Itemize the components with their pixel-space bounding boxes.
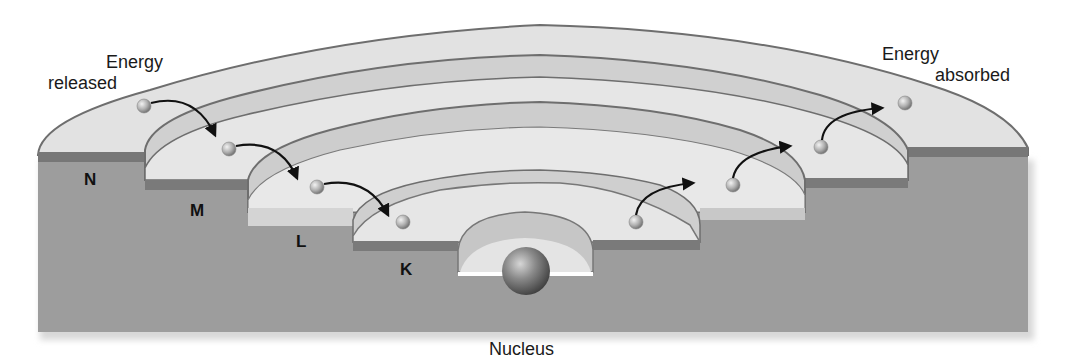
nucleus-sphere — [502, 247, 550, 295]
electron-k-left — [396, 215, 410, 229]
electron-n-right — [898, 96, 912, 110]
electron-k-right — [629, 215, 643, 229]
energy-released-line1: Energy — [48, 52, 176, 73]
nucleus-label: Nucleus — [489, 339, 554, 360]
energy-released-label: Energy released — [48, 52, 176, 94]
shell-label-l: L — [296, 232, 306, 252]
energy-released-line2: released — [48, 73, 176, 94]
electron-m-right — [814, 140, 828, 154]
electron-m-left — [222, 142, 236, 156]
shell-label-m: M — [190, 201, 204, 221]
electron-n-left — [137, 99, 151, 113]
energy-absorbed-line2: absorbed — [882, 65, 1010, 86]
electron-l-right — [726, 178, 740, 192]
shell-label-k: K — [400, 260, 412, 280]
energy-absorbed-line1: Energy — [882, 44, 1010, 65]
energy-absorbed-label: Energy absorbed — [882, 44, 1010, 86]
shell-label-n: N — [84, 170, 96, 190]
electron-l-left — [310, 180, 324, 194]
